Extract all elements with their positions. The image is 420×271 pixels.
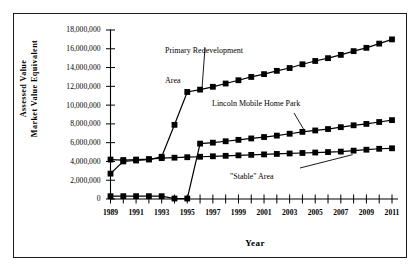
data-point-marker <box>274 68 280 74</box>
data-point-marker <box>236 152 242 158</box>
series-3 <box>108 145 395 163</box>
data-point-marker <box>300 129 306 135</box>
data-point-marker <box>261 134 267 140</box>
data-point-marker <box>108 193 114 199</box>
data-point-marker <box>364 121 370 127</box>
data-point-marker <box>389 36 395 42</box>
data-point-marker <box>172 196 178 202</box>
data-point-marker <box>120 157 126 163</box>
data-point-marker <box>351 122 357 128</box>
data-point-marker <box>184 154 190 160</box>
data-point-marker <box>172 122 178 128</box>
data-point-marker <box>300 61 306 67</box>
data-point-marker <box>351 48 357 54</box>
data-point-marker <box>376 119 382 125</box>
data-point-marker <box>210 153 216 159</box>
data-point-marker <box>312 58 318 64</box>
data-point-marker <box>364 147 370 153</box>
data-point-marker <box>274 133 280 139</box>
data-point-marker <box>338 149 344 155</box>
data-point-marker <box>210 140 216 146</box>
data-point-marker <box>261 71 267 77</box>
data-point-marker <box>223 81 229 87</box>
data-point-marker <box>223 153 229 159</box>
data-point-marker <box>248 152 254 158</box>
data-point-marker <box>325 126 331 132</box>
data-point-marker <box>351 148 357 154</box>
leader-line-stable <box>300 155 353 168</box>
data-point-marker <box>172 155 178 161</box>
data-point-marker <box>287 151 293 157</box>
data-point-marker <box>210 84 216 90</box>
leader-line-lincoln <box>294 113 303 129</box>
data-point-marker <box>146 193 152 199</box>
data-point-marker <box>184 89 190 95</box>
data-point-marker <box>133 157 139 163</box>
data-point-marker <box>325 55 331 61</box>
data-point-marker <box>338 124 344 130</box>
leader-line-primary <box>202 48 205 88</box>
data-point-marker <box>389 145 395 151</box>
data-point-marker <box>223 138 229 144</box>
data-point-marker <box>108 171 114 177</box>
data-point-marker <box>159 193 165 199</box>
data-point-marker <box>364 45 370 51</box>
data-point-marker <box>376 41 382 47</box>
data-point-marker <box>300 150 306 156</box>
data-point-marker <box>197 141 203 147</box>
data-point-marker <box>312 150 318 156</box>
data-point-marker <box>287 65 293 71</box>
data-point-marker <box>338 52 344 58</box>
data-point-marker <box>133 193 139 199</box>
figure-canvas: Assessed Value Market Value Equivalent Y… <box>0 0 420 271</box>
data-point-marker <box>236 137 242 143</box>
data-point-marker <box>376 146 382 152</box>
data-point-marker <box>287 131 293 137</box>
data-point-marker <box>159 155 165 161</box>
data-point-marker <box>261 152 267 158</box>
data-point-marker <box>197 154 203 160</box>
data-point-marker <box>274 151 280 157</box>
data-point-marker <box>248 74 254 80</box>
chart-plot-svg <box>0 0 420 271</box>
data-point-marker <box>146 156 152 162</box>
data-point-marker <box>248 136 254 142</box>
data-point-marker <box>108 157 114 163</box>
data-point-marker <box>325 149 331 155</box>
data-point-marker <box>236 77 242 83</box>
data-point-marker <box>389 117 395 123</box>
data-point-marker <box>312 128 318 134</box>
data-point-marker <box>120 193 126 199</box>
data-point-marker <box>184 196 190 202</box>
